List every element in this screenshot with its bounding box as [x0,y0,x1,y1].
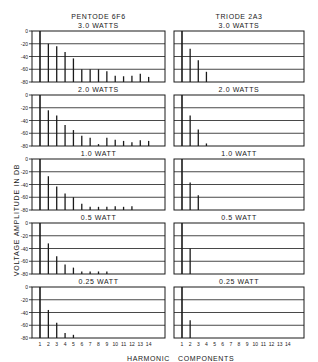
x-tick-label: 5 [213,341,216,347]
x-tick-label: 2 [47,341,50,347]
plot-grid: 3.0 WATTS0-20-40-60-803.0 WATTS2.0 WATTS… [0,0,318,362]
panel-power-label: 1.0 WATT [221,150,257,157]
y-tick-label: 0 [25,220,28,226]
panel-power-label: 2.0 WATTS [219,86,260,93]
y-tick-label: -80 [21,207,28,213]
y-tick-label: -60 [21,258,28,264]
panel-power-label: 2.0 WATTS [78,86,119,93]
x-tick-label: 14 [285,341,291,347]
y-tick-label: -40 [21,54,28,60]
y-tick-label: -60 [21,130,28,136]
panel-power-label: 3.0 WATTS [219,22,260,29]
x-tick-label: 14 [146,341,152,347]
x-tick-label: 4 [64,341,67,347]
x-tick-label: 3 [197,341,200,347]
x-axis-label-harmonic: HARMONIC [127,355,170,362]
y-tick-label: -20 [21,105,28,111]
x-tick-label: 10 [253,341,259,347]
x-tick-label: 12 [129,341,135,347]
y-tick-label: -20 [21,297,28,303]
x-tick-label: 7 [229,341,232,347]
panel-power-label: 0.25 WATT [219,278,259,285]
y-tick-label: -60 [21,322,28,328]
y-tick-label: 0 [25,156,28,162]
y-tick-label: -20 [21,41,28,47]
x-tick-label: 6 [221,341,224,347]
x-tick-label: 1 [39,341,42,347]
y-tick-label: -80 [21,271,28,277]
y-tick-label: -80 [21,143,28,149]
panel-power-label: 0.5 WATT [81,214,117,221]
x-tick-label: 11 [261,341,266,347]
y-tick-label: -20 [21,233,28,239]
x-tick-label: 4 [205,341,208,347]
x-tick-label: 9 [246,341,249,347]
y-tick-label: 0 [25,92,28,98]
x-tick-label: 7 [89,341,92,347]
x-tick-label: 3 [55,341,58,347]
panel-power-label: 0.25 WATT [78,278,118,285]
y-tick-label: -60 [21,194,28,200]
x-tick-label: 10 [112,341,118,347]
harmonic-distortion-figure: PENTODE 6F6 TRIODE 2A3 VOLTAGE AMPLITUDE… [0,0,318,362]
x-tick-label: 11 [121,341,126,347]
y-tick-label: -40 [21,246,28,252]
x-tick-label: 8 [238,341,241,347]
x-tick-label: 8 [97,341,100,347]
y-tick-label: -40 [21,310,28,316]
y-tick-label: -40 [21,118,28,124]
x-tick-label: 6 [80,341,83,347]
y-tick-label: -60 [21,66,28,72]
panel-power-label: 1.0 WATT [81,150,117,157]
y-tick-label: -20 [21,169,28,175]
x-tick-label: 9 [105,341,108,347]
panel-power-label: 0.5 WATT [221,214,257,221]
x-tick-label: 13 [138,341,144,347]
y-tick-label: -40 [21,182,28,188]
y-tick-label: 0 [25,284,28,290]
x-axis-label-components: COMPONENTS [178,355,234,362]
x-tick-label: 2 [189,341,192,347]
y-tick-label: 0 [25,28,28,34]
x-tick-label: 1 [181,341,184,347]
x-tick-label: 12 [269,341,275,347]
y-tick-label: -80 [21,335,28,341]
panel-power-label: 3.0 WATTS [78,22,119,29]
x-tick-label: 13 [277,341,283,347]
x-tick-label: 5 [72,341,75,347]
y-tick-label: -80 [21,79,28,85]
